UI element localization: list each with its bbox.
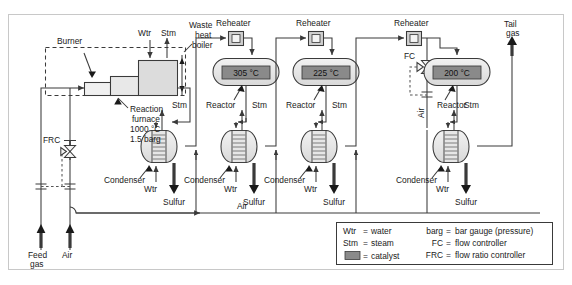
reheater-3 — [407, 32, 422, 46]
condenser-3-water-label: Wtr — [304, 184, 317, 194]
burner-nozzle — [85, 83, 111, 96]
reactor-3-label: Reactor — [437, 100, 467, 110]
reactor-2-temperature: 225 °C — [313, 68, 339, 78]
condenser-3-label: Condenser — [264, 175, 305, 185]
reheater-1 — [229, 32, 244, 46]
reheater-3-label: Reheater — [394, 18, 429, 28]
condenser-4-label: Condenser — [396, 175, 437, 185]
legend-left-eq-1: = — [363, 238, 368, 248]
legend-catalyst-swatch — [345, 252, 360, 260]
condenser-4 — [433, 131, 469, 163]
process-flow-diagram: Burner Wtr Stm Waste heat boiler Reactio… — [0, 0, 572, 285]
condenser-3-steam-label: Stm — [332, 100, 347, 110]
reactor-1-temperature: 305 °C — [233, 68, 259, 78]
legend-right-term-1: FC — [432, 238, 443, 248]
condenser-4-product-label: Sulfur — [455, 197, 477, 207]
boiler-steam-label: Stm — [161, 28, 176, 38]
legend-right-def-1: flow controller — [455, 238, 507, 248]
tail-gas-label-2: gas — [506, 28, 520, 38]
wh-boiler-label-1: Waste — [189, 20, 213, 30]
legend-right-def-0: bar gauge (pressure) — [455, 226, 533, 236]
reactor-3-temperature: 200 °C — [444, 68, 470, 78]
condenser-2-steam-label: Stm — [252, 100, 267, 110]
air-inlet-label: Air — [62, 250, 72, 260]
condenser-2-water-label: Wtr — [224, 184, 237, 194]
condenser-2-label: Condenser — [184, 175, 225, 185]
frc-label: FRC — [43, 135, 60, 145]
reaction-furnace-label-1: Reaction — [130, 104, 163, 114]
legend-left-term-1: Stm — [343, 238, 358, 248]
condenser-3-product-label: Sulfur — [323, 197, 345, 207]
reheater-2-label: Reheater — [296, 18, 331, 28]
condenser-4-water-label: Wtr — [436, 184, 449, 194]
condenser-1-water-label: Wtr — [144, 184, 157, 194]
condenser-3 — [301, 131, 337, 163]
legend-left-eq-0: = — [363, 226, 368, 236]
legend-right-term-2: FRC — [426, 250, 443, 260]
waste-heat-boiler-body — [139, 61, 178, 96]
wh-boiler-label-3: boiler — [192, 40, 213, 50]
legend-left-def-1: steam — [371, 238, 394, 248]
legend-left-def-0: water — [370, 226, 392, 236]
reaction-furnace-label-4: 1.5 barg — [130, 134, 161, 144]
condenser-4-steam-label: Stm — [464, 100, 479, 110]
reheater-1-label: Reheater — [216, 18, 251, 28]
legend-right-def-2: flow ratio controller — [455, 250, 525, 260]
feed-gas-label-2: gas — [30, 259, 44, 269]
legend-left-term-0: Wtr — [343, 226, 356, 236]
legend-right-term-0: barg — [426, 226, 443, 236]
reaction-furnace-body — [111, 77, 139, 96]
diagram-canvas: Burner Wtr Stm Waste heat boiler Reactio… — [0, 0, 572, 285]
fc-label: FC — [404, 51, 415, 61]
condenser-2 — [221, 131, 257, 163]
air-branch-label: Air — [416, 108, 426, 118]
legend-left-eq-2: = — [363, 251, 368, 261]
burner-label: Burner — [57, 36, 82, 46]
condenser-1-label: Condenser — [104, 175, 145, 185]
reactor-2-label: Reactor — [286, 100, 316, 110]
reaction-furnace-label-2: furnace — [132, 114, 160, 124]
legend-right-eq-2: = — [446, 250, 451, 260]
wh-boiler-label-2: heat — [195, 30, 212, 40]
condenser-2-product-label: Sulfur — [243, 197, 265, 207]
reheater-2 — [309, 32, 324, 46]
boiler-water-label: Wtr — [138, 28, 151, 38]
condenser-1-product-label: Sulfur — [163, 197, 185, 207]
reactor-1-label: Reactor — [206, 100, 236, 110]
legend-left-def-2: catalyst — [371, 251, 400, 261]
legend-right-eq-0: = — [446, 226, 451, 236]
legend-right-eq-1: = — [446, 238, 451, 248]
reaction-furnace-label-3: 1000 °C — [130, 124, 160, 134]
condenser-1-steam-label: Stm — [172, 100, 187, 110]
